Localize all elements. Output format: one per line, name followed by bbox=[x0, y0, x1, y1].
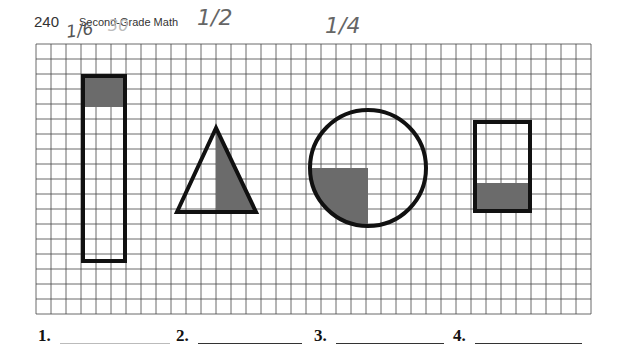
answer-3-label: 3. bbox=[314, 326, 327, 346]
answer-3-line[interactable] bbox=[336, 343, 444, 344]
worksheet-figure bbox=[0, 0, 617, 346]
answer-2-line[interactable] bbox=[198, 343, 302, 344]
answer-1-label: 1. bbox=[38, 326, 51, 346]
shape-3-circle bbox=[310, 110, 426, 226]
answer-1-line[interactable] bbox=[60, 343, 170, 344]
shape-2-triangle bbox=[177, 128, 256, 212]
answer-2-label: 2. bbox=[176, 326, 189, 346]
answer-4-line[interactable] bbox=[475, 343, 582, 344]
shape-4-rectangle bbox=[475, 122, 530, 211]
shape-1-rectangle bbox=[83, 76, 125, 261]
answer-4-label: 4. bbox=[453, 326, 466, 346]
